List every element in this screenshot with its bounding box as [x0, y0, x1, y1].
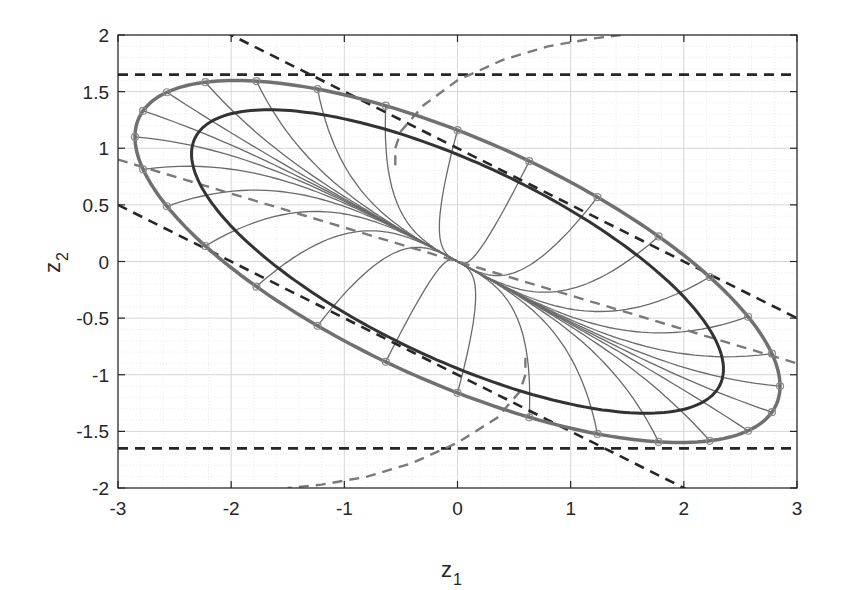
x-tick-label: 0 — [452, 498, 463, 519]
x-tick-label: -2 — [223, 498, 240, 519]
phase-portrait-chart: -3-2-10123 -2-1.5-1-0.500.511.52 z 1 z 2 — [0, 0, 844, 590]
y-tick-label: 1.5 — [83, 82, 109, 103]
y-tick-label: 0 — [98, 252, 109, 273]
x-tick-label: -1 — [336, 498, 353, 519]
y-tick-label: 1 — [98, 138, 109, 159]
y-axis-label-main: z — [40, 262, 65, 273]
x-axis-label-main: z — [441, 557, 452, 582]
x-tick-label: 1 — [565, 498, 576, 519]
y-axis-label-subscript: 2 — [54, 252, 71, 261]
y-tick-label: -0.5 — [76, 308, 109, 329]
y-tick-label: 2 — [98, 25, 109, 46]
x-tick-label: -3 — [110, 498, 127, 519]
x-tick-label: 3 — [792, 498, 803, 519]
y-tick-label: -2 — [92, 478, 109, 499]
x-axis-label-subscript: 1 — [453, 571, 462, 588]
y-tick-label: -1.5 — [76, 421, 109, 442]
y-tick-label: 0.5 — [83, 195, 109, 216]
y-tick-label: -1 — [92, 365, 109, 386]
x-tick-label: 2 — [679, 498, 690, 519]
